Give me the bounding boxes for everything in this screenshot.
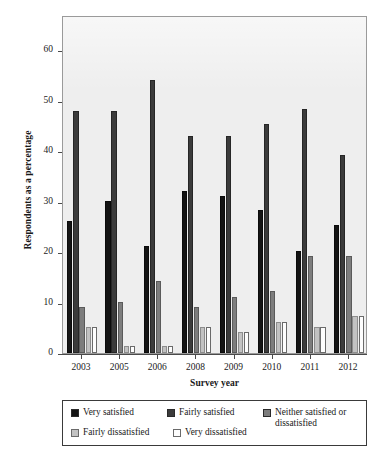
bar (270, 291, 275, 353)
y-tick-label: 20 (13, 246, 53, 256)
bar (111, 111, 116, 353)
bar (282, 322, 287, 353)
bar (67, 221, 72, 353)
bar (206, 327, 211, 353)
bar (264, 124, 269, 353)
x-tick-mark (81, 354, 82, 359)
bar (226, 136, 231, 353)
y-tick-label: 40 (13, 145, 53, 155)
x-axis-title: Survey year (62, 378, 367, 388)
bar (308, 256, 313, 353)
bar (244, 332, 249, 353)
y-tick-mark (58, 152, 62, 153)
bar (168, 346, 173, 353)
plot-area (62, 16, 367, 354)
y-tick-mark (58, 304, 62, 305)
x-tick-mark (272, 354, 273, 359)
legend-swatch-icon (173, 429, 181, 437)
x-tick-mark (195, 354, 196, 359)
bar (150, 80, 155, 353)
x-tick-mark (234, 354, 235, 359)
y-tick-label: 30 (13, 196, 53, 206)
legend-swatch-icon (167, 409, 175, 417)
bar (320, 327, 325, 353)
bar (105, 201, 110, 353)
legend-item[interactable]: Fairly satisfied (167, 407, 259, 418)
y-tick-mark (58, 51, 62, 52)
bar (118, 302, 123, 353)
bar (334, 225, 339, 353)
legend-swatch-icon (263, 409, 271, 417)
legend-swatch-icon (71, 409, 79, 417)
bar (340, 155, 345, 353)
bar (194, 307, 199, 353)
bar (182, 191, 187, 353)
bar (220, 196, 225, 353)
y-tick-mark (58, 102, 62, 103)
bar (124, 346, 129, 353)
bar (276, 322, 281, 353)
x-tick-mark (119, 354, 120, 359)
bar-chart-figure: Respondents as a percentage 010203040506… (0, 0, 380, 463)
x-tick-label: 2012 (324, 362, 372, 372)
legend-item[interactable]: Fairly dissatisfied (71, 427, 171, 438)
bar (258, 210, 263, 353)
legend-label: Neither satisfied or dissatisfied (275, 407, 363, 428)
bar (156, 281, 161, 353)
y-tick-mark (58, 203, 62, 204)
legend-label: Very dissatisfied (185, 427, 247, 438)
bar (238, 332, 243, 353)
bar (79, 307, 84, 353)
y-axis-title: Respondents as a percentage (23, 70, 33, 310)
bar (188, 136, 193, 353)
bar (144, 246, 149, 353)
bar (130, 346, 135, 353)
legend-item[interactable]: Very dissatisfied (173, 427, 273, 438)
bar (314, 327, 319, 353)
legend-item[interactable]: Very satisfied (71, 407, 163, 418)
bar (232, 297, 237, 354)
x-tick-mark (157, 354, 158, 359)
chart-legend: Very satisfiedFairly satisfiedNeither sa… (62, 400, 367, 446)
bar (352, 316, 357, 353)
bar (73, 111, 78, 353)
x-tick-mark (348, 354, 349, 359)
legend-label: Fairly dissatisfied (83, 427, 149, 438)
bar (86, 327, 91, 353)
bar (346, 256, 351, 353)
y-tick-label: 50 (13, 95, 53, 105)
bar (162, 346, 167, 353)
bar (296, 251, 301, 353)
bar (359, 316, 364, 353)
legend-item[interactable]: Neither satisfied or dissatisfied (263, 407, 363, 428)
y-tick-label: 10 (13, 297, 53, 307)
legend-swatch-icon (71, 429, 79, 437)
y-tick-label: 60 (13, 44, 53, 54)
x-axis-line (62, 354, 367, 355)
legend-label: Very satisfied (83, 407, 134, 418)
bar (302, 109, 307, 353)
y-tick-label: 0 (13, 347, 53, 357)
legend-label: Fairly satisfied (179, 407, 235, 418)
x-tick-mark (310, 354, 311, 359)
y-tick-mark (58, 253, 62, 254)
bar (92, 327, 97, 353)
bar (200, 327, 205, 353)
